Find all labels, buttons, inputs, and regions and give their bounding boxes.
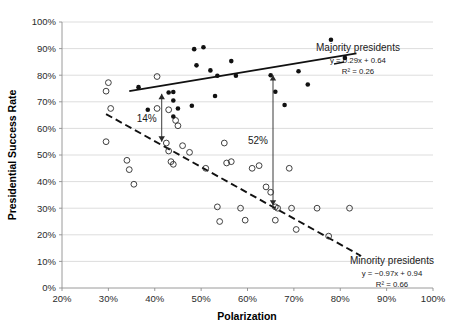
- data-point-majority: [273, 89, 278, 94]
- data-point-majority: [192, 47, 197, 52]
- data-point-majority: [229, 59, 234, 64]
- y-tick-0%: 0%: [42, 282, 56, 293]
- legend-minority-title: Minority presidents: [350, 255, 434, 266]
- data-point-minority: [221, 140, 227, 146]
- y-tick-10%: 10%: [37, 256, 57, 267]
- data-point-majority: [171, 98, 176, 103]
- y-tick-20%: 20%: [37, 229, 57, 240]
- x-tick-20%: 20%: [52, 293, 72, 304]
- data-point-minority: [293, 227, 299, 233]
- data-point-majority: [176, 106, 181, 111]
- scatter-chart: 0%10%20%30%40%50%60%70%80%90%100% 20%30%…: [0, 0, 459, 333]
- x-tick-labels: 20%30%40%50%60%70%80%90%100%: [52, 288, 445, 304]
- x-tick-40%: 40%: [145, 293, 165, 304]
- data-point-majority: [296, 69, 301, 74]
- data-point-minority: [180, 143, 186, 149]
- data-point-minority: [249, 165, 255, 171]
- data-point-minority: [103, 88, 109, 94]
- data-point-minority: [108, 106, 114, 112]
- x-tick-50%: 50%: [192, 293, 212, 304]
- data-point-minority: [154, 106, 160, 112]
- data-point-minority: [154, 74, 160, 80]
- data-point-majority: [171, 114, 176, 119]
- annotation-arrows: 14%52%: [137, 75, 277, 205]
- data-point-minority: [286, 165, 292, 171]
- y-tick-70%: 70%: [37, 96, 57, 107]
- data-point-minority: [166, 107, 172, 113]
- data-point-majority: [213, 94, 218, 99]
- data-point-minority: [105, 80, 111, 86]
- data-point-minority: [214, 204, 220, 210]
- data-point-minority: [217, 219, 223, 225]
- annotation-arrowhead-up: [159, 94, 165, 99]
- data-point-majority: [171, 90, 176, 95]
- data-point-minority: [242, 217, 248, 223]
- data-point-majority: [305, 82, 310, 87]
- data-point-majority: [201, 45, 206, 50]
- x-tick-60%: 60%: [238, 293, 258, 304]
- legend-majority: Majority presidents y = 0.29x + 0.64 R² …: [316, 42, 400, 76]
- data-point-minority: [131, 181, 137, 187]
- data-point-majority: [215, 73, 220, 78]
- y-tick-labels: 0%10%20%30%40%50%60%70%80%90%100%: [32, 16, 62, 293]
- y-tick-50%: 50%: [37, 149, 57, 160]
- y-tick-30%: 30%: [37, 203, 57, 214]
- data-point-minority: [103, 139, 109, 145]
- data-point-minority: [163, 140, 169, 146]
- x-tick-70%: 70%: [284, 293, 304, 304]
- data-point-majority: [194, 63, 199, 68]
- trendline-majority: [129, 53, 356, 91]
- annotation-label: 52%: [248, 135, 268, 146]
- y-tick-40%: 40%: [37, 176, 57, 187]
- data-point-majority: [136, 85, 141, 90]
- data-point-majority: [166, 90, 171, 95]
- legend-minority-r2: R² = 0.66: [376, 280, 408, 289]
- legend-majority-r2: R² = 0.26: [342, 67, 374, 76]
- legend-minority-equation: y = −0.97x + 0.94: [362, 269, 423, 278]
- data-point-minority: [126, 167, 132, 173]
- data-point-majority: [190, 103, 195, 108]
- data-point-minority: [263, 184, 269, 190]
- x-tick-90%: 90%: [377, 293, 397, 304]
- y-tick-80%: 80%: [37, 70, 57, 81]
- data-point-majority: [282, 103, 287, 108]
- data-point-minority: [256, 163, 262, 169]
- legend-minority: Minority presidents y = −0.97x + 0.94 R²…: [350, 255, 434, 289]
- y-tick-100%: 100%: [32, 16, 57, 27]
- y-tick-90%: 90%: [37, 43, 57, 54]
- data-point-minority: [187, 149, 193, 155]
- y-tick-60%: 60%: [37, 123, 57, 134]
- x-tick-80%: 80%: [331, 293, 351, 304]
- data-point-minority: [175, 123, 181, 129]
- data-point-minority: [272, 217, 278, 223]
- chart-canvas: 0%10%20%30%40%50%60%70%80%90%100% 20%30%…: [0, 0, 459, 333]
- x-tick-30%: 30%: [99, 293, 119, 304]
- y-axis-title: Presidential Success Rate: [6, 89, 18, 220]
- data-point-majority: [234, 73, 239, 78]
- annotation-label: 14%: [137, 113, 157, 124]
- x-tick-100%: 100%: [421, 293, 446, 304]
- data-point-majority: [208, 68, 213, 73]
- data-point-majority: [145, 107, 150, 112]
- data-points-minority: [103, 74, 352, 239]
- legend-majority-title: Majority presidents: [316, 42, 400, 53]
- x-axis-title: Polarization: [217, 310, 277, 322]
- data-point-minority: [124, 157, 130, 163]
